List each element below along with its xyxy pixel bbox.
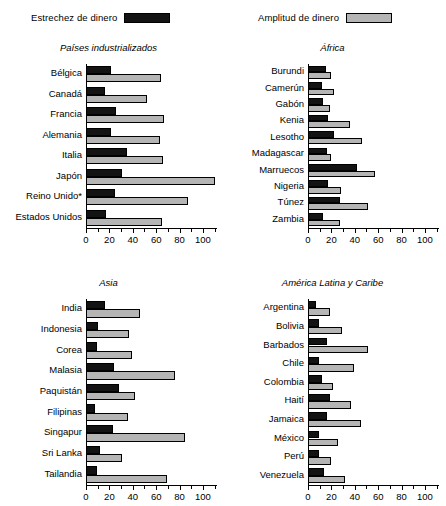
x-axis-tick [215, 486, 216, 489]
bar-estrechez [308, 180, 328, 187]
bar-amplitud [86, 115, 164, 123]
bar-amplitud [86, 136, 160, 144]
bar-amplitud [308, 121, 350, 128]
category-label: Túnez [222, 197, 308, 207]
bar-amplitud [86, 475, 167, 483]
x-axis-tick [308, 229, 309, 233]
x-axis-tick [425, 229, 426, 233]
legend-item-amplitud: Amplitud de dinero [258, 12, 392, 23]
bar-estrechez [86, 128, 111, 136]
x-axis-tick [98, 486, 99, 489]
plot-area: 020406080100 [86, 64, 217, 228]
bar-amplitud [86, 413, 128, 421]
x-axis-tick-label: 20 [326, 491, 337, 502]
bar-amplitud [308, 327, 342, 334]
x-axis-tick-label: 0 [83, 234, 88, 245]
panel-title: Asia [0, 277, 217, 288]
bar-estrechez [86, 301, 105, 309]
x-axis-tick [98, 229, 99, 232]
x-axis-tick-label: 40 [349, 491, 360, 502]
category-label: Venezuela [222, 470, 308, 480]
x-axis-tick [121, 229, 122, 232]
plot-area: 020406080100 [86, 299, 217, 485]
category-label: Indonesia [0, 324, 86, 334]
category-label: Madagascar [222, 148, 308, 158]
x-axis-tick [86, 229, 87, 233]
x-axis-line [308, 228, 439, 229]
x-axis-tick-label: 80 [396, 491, 407, 502]
bar-estrechez [86, 466, 97, 474]
bar-amplitud [86, 309, 140, 317]
x-axis-tick-label: 40 [127, 491, 138, 502]
x-axis-tick [180, 486, 181, 490]
x-axis-tick [320, 486, 321, 489]
bar-amplitud [308, 187, 341, 194]
category-label: Chile [222, 358, 308, 368]
category-label: Gabón [222, 99, 308, 109]
x-axis-tick [402, 229, 403, 233]
legend-swatch-amplitud [346, 13, 392, 23]
x-axis-tick [109, 486, 110, 490]
bar-estrechez [86, 87, 105, 95]
x-axis-line [86, 485, 217, 486]
bar-amplitud [308, 138, 362, 145]
bar-amplitud [308, 203, 368, 210]
category-label: Camerún [222, 83, 308, 93]
x-axis-tick-label: 60 [373, 234, 384, 245]
x-axis-tick [191, 229, 192, 232]
bar-amplitud [308, 72, 331, 79]
y-axis-line [86, 64, 87, 228]
x-axis-tick-label: 0 [305, 234, 310, 245]
x-axis-tick [413, 486, 414, 489]
x-axis-tick-label: 100 [195, 234, 211, 245]
y-axis-line [86, 299, 87, 485]
category-label: Colombia [222, 377, 308, 387]
x-axis-tick [331, 486, 332, 490]
bar-estrechez [86, 66, 111, 74]
category-label: Lesotho [222, 132, 308, 142]
x-axis-tick [437, 486, 438, 489]
x-axis-tick [86, 486, 87, 490]
bar-estrechez [308, 98, 323, 105]
y-axis-line [308, 64, 309, 228]
bar-amplitud [86, 156, 163, 164]
x-axis-tick-label: 60 [151, 234, 162, 245]
category-label: Francia [0, 109, 86, 119]
legend-label-amplitud: Amplitud de dinero [258, 12, 339, 23]
x-axis-tick [215, 229, 216, 232]
bar-estrechez [308, 468, 324, 475]
category-label: Corea [0, 345, 86, 355]
panel-title: Países industrializados [0, 42, 217, 53]
x-axis-line [86, 228, 217, 229]
bar-estrechez [86, 322, 98, 330]
bar-estrechez [86, 210, 106, 218]
category-label: Tailandia [0, 469, 86, 479]
bar-amplitud [308, 220, 340, 227]
x-axis-tick [168, 229, 169, 232]
bar-estrechez [308, 319, 319, 326]
x-axis-tick [355, 486, 356, 490]
category-label: Malasia [0, 365, 86, 375]
bar-estrechez [86, 342, 97, 350]
x-axis-tick [191, 486, 192, 489]
plot-area: 020406080100 [308, 64, 439, 228]
category-label: Argentina [222, 302, 308, 312]
x-axis-tick [390, 486, 391, 489]
category-label: Jamaica [222, 414, 308, 424]
x-axis-tick [390, 229, 391, 232]
category-label: Burundi [222, 66, 308, 76]
category-label: Filipinas [0, 407, 86, 417]
bar-estrechez [308, 197, 340, 204]
bar-amplitud [308, 154, 331, 161]
bar-estrechez [308, 164, 357, 171]
chart-legend: Estrechez de dinero Amplitud de dinero [0, 10, 446, 36]
x-axis-tick [144, 229, 145, 232]
bar-amplitud [86, 74, 161, 82]
x-axis-tick [343, 229, 344, 232]
category-label: Nigeria [222, 181, 308, 191]
x-axis-tick-label: 80 [396, 234, 407, 245]
x-axis-tick [355, 229, 356, 233]
legend-swatch-estrechez [124, 13, 170, 23]
x-axis-tick [203, 486, 204, 490]
x-axis-tick [144, 486, 145, 489]
